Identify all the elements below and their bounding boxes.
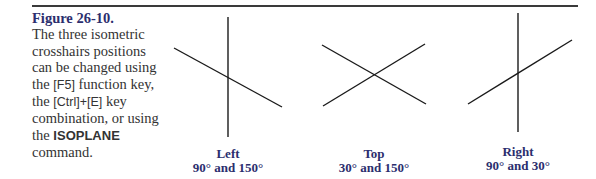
left-crosshair-icon	[174, 17, 282, 137]
left-label-angles: 90° and 150°	[168, 161, 288, 175]
left-label-name: Left	[168, 147, 288, 161]
right-label-angles: 90° and 30°	[458, 159, 578, 173]
right-label-name: Right	[458, 145, 578, 159]
right-crosshair-icon	[468, 13, 572, 132]
left-label: Left 90° and 150°	[168, 147, 288, 175]
top-label-name: Top	[314, 147, 434, 161]
top-crosshair-icon	[322, 44, 426, 106]
top-label-angles: 30° and 150°	[314, 161, 434, 175]
top-label: Top 30° and 150°	[314, 147, 434, 175]
right-label: Right 90° and 30°	[458, 145, 578, 173]
